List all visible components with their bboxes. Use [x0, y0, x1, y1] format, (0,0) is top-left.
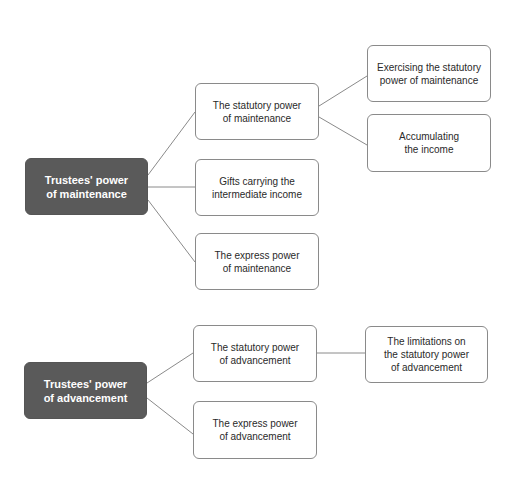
root-node-maintenance: Trustees' power of maintenance [25, 158, 148, 215]
node-express-maintenance: The express power of maintenance [195, 233, 319, 290]
node-statutory-maintenance: The statutory power of maintenance [195, 83, 319, 140]
node-limitations-statutory-power: The limitations on the statutory power o… [365, 326, 488, 383]
node-exercising-statutory-power: Exercising the statutory power of mainte… [367, 45, 491, 102]
mind-map-diagram: Trustees' power of maintenance The statu… [0, 0, 518, 495]
node-express-advancement: The express power of advancement [193, 401, 317, 459]
node-statutory-advancement: The statutory power of advancement [193, 325, 317, 382]
root-node-advancement: Trustees' power of advancement [24, 362, 147, 419]
node-gifts-intermediate-income: Gifts carrying the intermediate income [195, 159, 319, 216]
node-accumulating-income: Accumulating the income [367, 114, 491, 172]
